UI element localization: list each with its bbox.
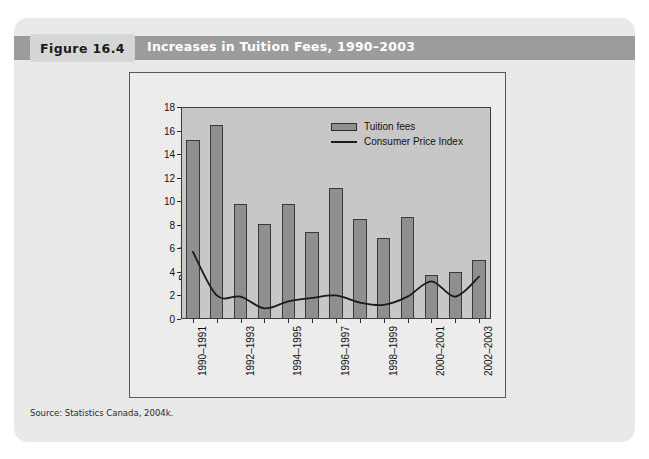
legend-label-tuition-fees: Tuition fees	[364, 121, 415, 132]
y-tick-label: 0	[169, 314, 175, 325]
legend-item-tuition-fees: Tuition fees	[331, 119, 463, 134]
legend-item-consumer-price-index: Consumer Price Index	[331, 134, 463, 149]
x-tick-label: 1996–1997	[340, 326, 351, 376]
y-tick-label: 12	[164, 172, 175, 183]
x-tick-mark	[312, 319, 313, 323]
x-tick-mark	[336, 319, 337, 323]
y-tick-label: 4	[169, 266, 175, 277]
plot-outer: 024681012141618 1990–19911992–19931994–1…	[181, 107, 491, 319]
legend-swatch-bar-icon	[331, 123, 357, 131]
x-tick-mark	[384, 319, 385, 323]
x-tick-mark	[479, 319, 480, 323]
x-tick-label: 2002–2003	[483, 326, 494, 376]
x-tick-mark	[360, 319, 361, 323]
x-tick-label: 1994–1995	[292, 326, 303, 376]
x-tick-mark	[264, 319, 265, 323]
y-tick-label: 14	[164, 149, 175, 160]
figure-title: Increases in Tuition Fees, 1990–2003	[147, 39, 415, 54]
figure-number-tag: Figure 16.4	[30, 34, 135, 62]
legend-label-consumer-price-index: Consumer Price Index	[364, 136, 463, 147]
x-tick-label: 1998–1999	[388, 326, 399, 376]
x-tick-mark	[408, 319, 409, 323]
figure-card: Figure 16.4 Increases in Tuition Fees, 1…	[14, 18, 635, 442]
y-tick-label: 8	[169, 219, 175, 230]
y-tick-label: 10	[164, 196, 175, 207]
figure-source-note: Source: Statistics Canada, 2004k.	[30, 408, 173, 418]
x-tick-mark	[455, 319, 456, 323]
x-tick-mark	[288, 319, 289, 323]
y-tick-label: 18	[164, 102, 175, 113]
legend-swatch-line-icon	[331, 141, 357, 143]
x-tick-label: 1990–1991	[197, 326, 208, 376]
y-tick-label: 2	[169, 290, 175, 301]
x-tick-mark	[431, 319, 432, 323]
x-tick-mark	[193, 319, 194, 323]
y-tick-mark	[177, 319, 181, 320]
y-tick-label: 16	[164, 125, 175, 136]
x-tick-label: 2000–2001	[435, 326, 446, 376]
chart-legend: Tuition fees Consumer Price Index	[331, 119, 463, 149]
y-tick-label: 6	[169, 243, 175, 254]
x-tick-mark	[241, 319, 242, 323]
x-tick-label: 1992–1993	[245, 326, 256, 376]
chart-frame: Percentage increase 024681012141618 1990…	[129, 72, 506, 398]
figure-number-label: Figure 16.4	[40, 41, 125, 56]
x-tick-mark	[217, 319, 218, 323]
